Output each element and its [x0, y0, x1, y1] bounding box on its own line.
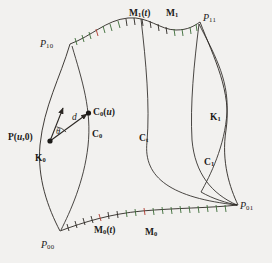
label-p-u-0: P(u,0) [8, 133, 33, 143]
figure-root: P10 P11 P00 P01 M1(t) M1 M0(t) M0 C0(u) … [0, 0, 272, 263]
label-ct: Ct [139, 134, 148, 144]
curve-interior-ct [141, 19, 237, 205]
label-m0: M0 [145, 228, 157, 238]
label-p01: P01 [240, 201, 253, 212]
point-c0-u [86, 110, 91, 115]
label-c1: C1 [204, 158, 214, 168]
label-angle-theta: θ [56, 127, 60, 136]
label-m1-t: M1(t) [129, 9, 150, 19]
curve-top-boundary-m1 [70, 18, 200, 44]
label-k1: K1 [210, 113, 221, 123]
point-p-u-0 [47, 138, 52, 143]
curve-interior-c0 [61, 46, 89, 230]
label-p00: P00 [41, 240, 54, 251]
label-p10: P10 [40, 39, 53, 50]
label-p11: P11 [203, 13, 216, 24]
label-k0: K0 [35, 154, 46, 164]
label-c0: C0 [92, 130, 102, 140]
label-c0-u: C0(u) [93, 108, 115, 118]
label-m1: M1 [166, 9, 178, 19]
label-distance-d: d [72, 113, 77, 123]
tick-marks-top [75, 18, 197, 45]
label-m0-t: M0(t) [94, 226, 115, 236]
